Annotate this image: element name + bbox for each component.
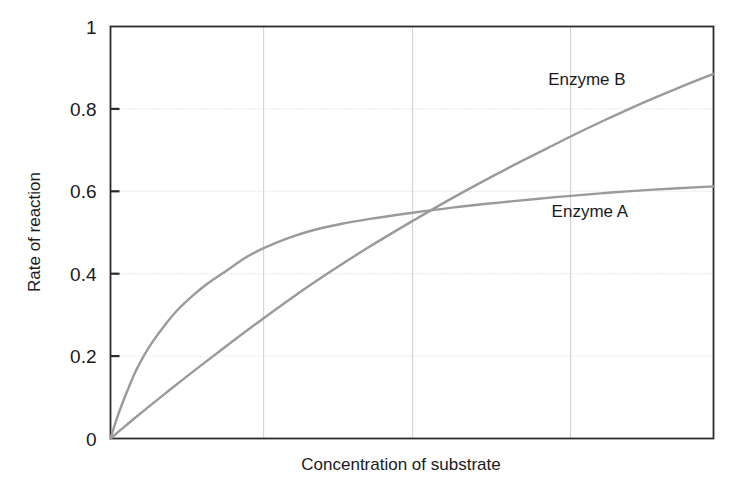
y-axis-tick-label: 0 — [86, 429, 97, 450]
x-axis-title: Concentration of substrate — [301, 455, 500, 474]
y-axis-tick-label: 0.6 — [70, 181, 96, 202]
y-axis-tick-label: 0.4 — [70, 264, 97, 285]
chart-page: 00.20.40.60.81 Enzyme AEnzyme B Concentr… — [0, 0, 740, 490]
series-label-enzyme-a: Enzyme A — [552, 202, 629, 221]
series-label-enzyme-b: Enzyme B — [548, 70, 625, 89]
y-axis-title-text: Rate of reaction — [25, 172, 44, 292]
y-axis-tick-label: 1 — [86, 17, 97, 38]
x-axis-title-text: Concentration of substrate — [301, 455, 500, 474]
enzyme-kinetics-chart: 00.20.40.60.81 Enzyme AEnzyme B Concentr… — [0, 0, 740, 490]
y-axis-title: Rate of reaction — [25, 172, 44, 292]
y-axis-tick-label: 0.2 — [70, 346, 96, 367]
y-axis-tick-label: 0.8 — [70, 99, 96, 120]
